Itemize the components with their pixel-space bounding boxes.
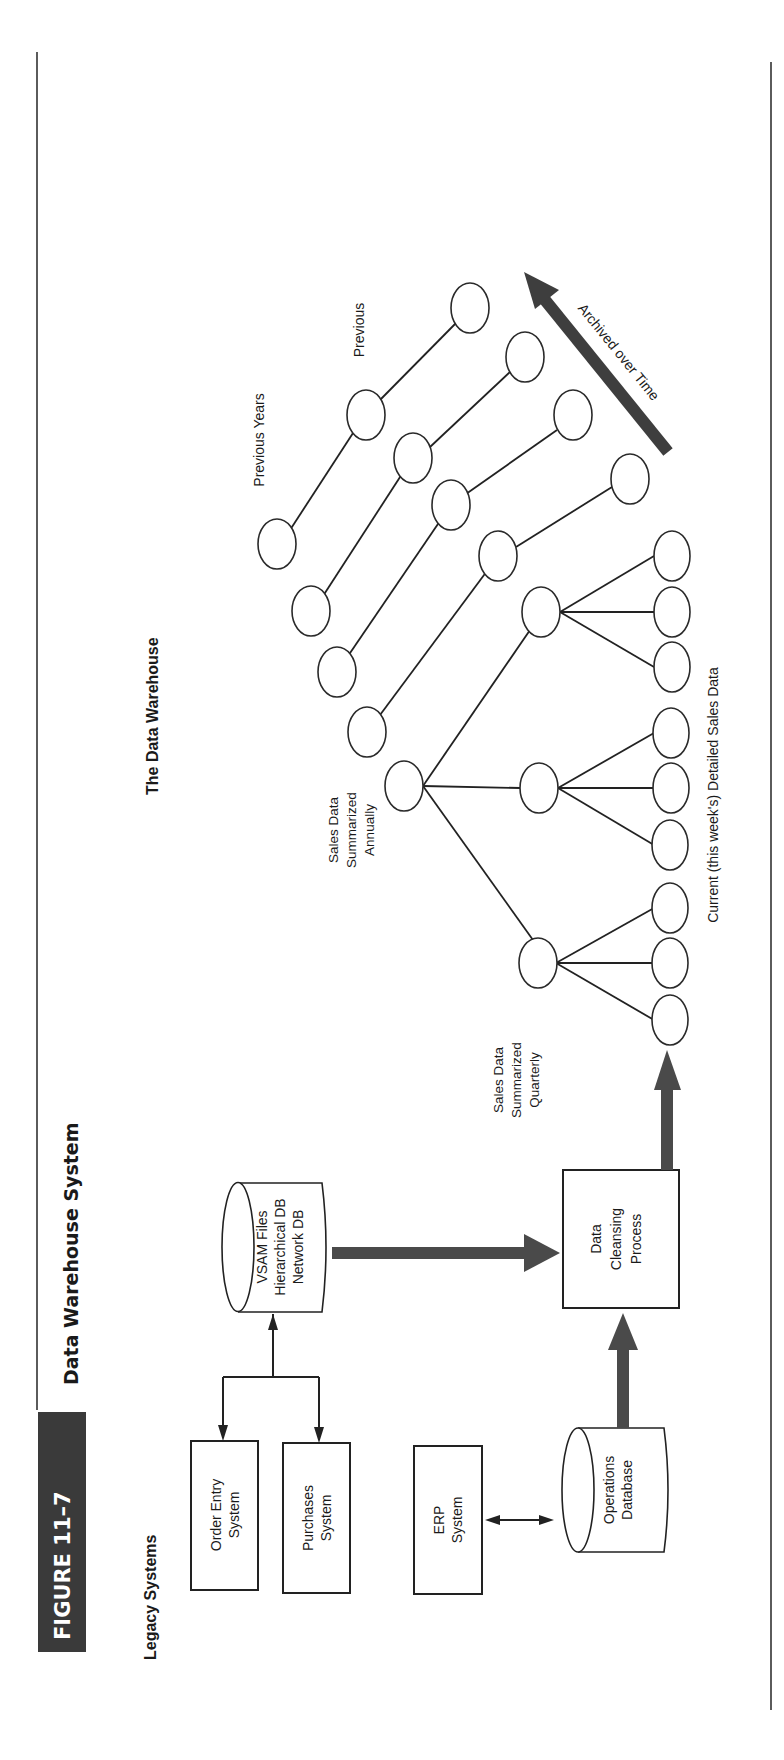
erp-box [414,1446,482,1594]
leaf-node [654,642,690,692]
leaf-node [652,938,688,988]
archive-node [611,454,649,504]
archive-node [451,283,489,333]
annual-label-3: Annually [362,804,377,856]
quarterly-label-2: Summarized [509,1042,524,1118]
leaf-node [653,763,689,813]
fat-arrow-ops-to-cleansing [608,1313,638,1428]
archive-node [318,647,356,697]
cleansing-label-2: Cleansing [608,1208,624,1270]
vsam-label-2: Hierarchical DB [272,1198,288,1295]
figure-label: FIGURE 11–7 [51,1491,75,1640]
leaf-node [652,995,688,1045]
archive-arrow [524,272,668,452]
previous-label: Previous [351,303,367,357]
arrowhead-down-purchases [314,1427,324,1443]
order-entry-label-2: System [226,1492,242,1539]
order-entry-label-1: Order Entry [208,1479,224,1551]
archive-node [292,586,330,636]
leaf-node [652,883,688,933]
quarterly-label-1: Sales Data [491,1046,506,1113]
warehouse-heading: The Data Warehouse [144,637,161,795]
double-arrow-erp-ops [485,1515,554,1525]
quarter-node-1 [519,938,557,988]
order-entry-box [191,1441,258,1590]
archive-node [506,332,544,382]
purchases-box [283,1443,350,1593]
figure-title: Data Warehouse System [60,1122,82,1385]
previous-years-label: Previous Years [251,393,267,486]
cleansing-label-3: Process [628,1214,644,1265]
fat-arrow-vsam-to-cleansing [332,1234,560,1272]
arrowhead-down-order [218,1425,228,1441]
current-detailed-label: Current (this week's) Detailed Sales Dat… [705,667,721,923]
quarter-node-2 [520,763,558,813]
archive-node [394,433,432,483]
leaf-node [652,820,688,870]
vsam-label-1: VSAM Files [254,1210,270,1283]
annual-node [385,761,423,811]
data-warehouse-diagram: FIGURE 11–7 Data Warehouse System Legacy… [0,0,784,1760]
archive-node [479,531,517,581]
leaf-node [654,587,690,637]
annual-label-1: Sales Data [326,796,341,863]
erp-label-2: System [449,1497,465,1544]
leaf-node [653,708,689,758]
purchases-label-2: System [318,1495,334,1542]
archive-node [348,707,386,757]
quarterly-label-3: Quarterly [527,1052,542,1108]
purchases-label-1: Purchases [300,1485,316,1551]
archive-node [347,390,385,440]
cleansing-label-1: Data [588,1224,604,1254]
fat-arrow-cleansing-to-warehouse [654,1050,681,1170]
arrowhead-up-vsam [268,1314,278,1330]
archive-node [258,519,296,569]
quarter-node-3 [522,587,560,637]
annual-label-2: Summarized [344,792,359,868]
erp-label-1: ERP [431,1506,447,1535]
operations-db-label-2: Database [619,1460,635,1520]
vsam-label-3: Network DB [290,1210,306,1285]
archive-node [554,390,592,440]
legacy-branch-connector [223,1314,319,1434]
legacy-systems-heading: Legacy Systems [142,1534,159,1660]
operations-db-label-1: Operations [601,1456,617,1524]
archive-node [432,480,470,530]
leaf-node [654,531,690,581]
